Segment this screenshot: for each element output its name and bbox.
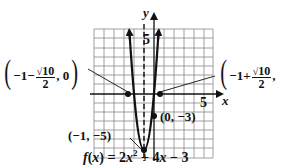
y-intercept-point — [151, 113, 157, 119]
left-root-label: (−1−√102, 0) — [2, 52, 80, 90]
right-root-point — [157, 91, 163, 97]
y-tick-5: 5 — [143, 33, 150, 47]
vertex-label: (−1, −5) — [68, 129, 111, 142]
y-axis-label: y — [143, 6, 149, 19]
left-root-point — [125, 91, 131, 97]
right-root-label: (−1+√102, — [218, 52, 275, 90]
y-intercept-label: (0, −3) — [160, 110, 196, 123]
function-formula: f(x) = 2x2 + 4x − 3 — [83, 148, 188, 166]
x-axis-label: x — [222, 94, 229, 107]
x-tick-5: 5 — [200, 96, 207, 110]
